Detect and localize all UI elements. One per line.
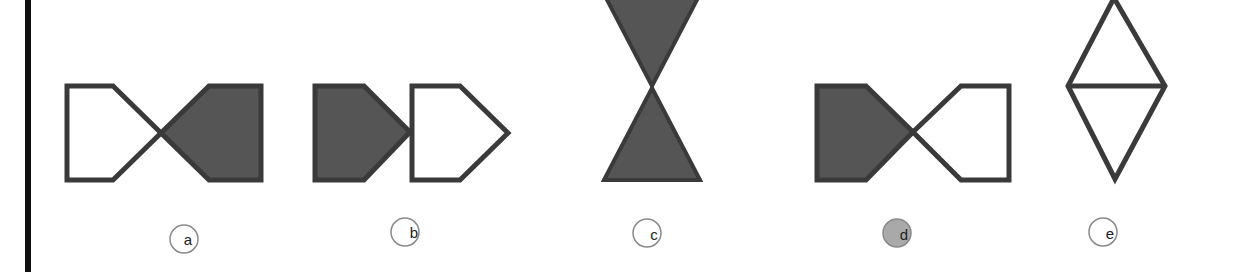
option-a-left-pentagon (67, 86, 161, 180)
option-d-left-pentagon (817, 86, 913, 180)
option-c-figure[interactable] (604, 0, 700, 180)
option-d-right-pentagon (913, 86, 1009, 180)
option-e-figure[interactable] (1068, 0, 1165, 179)
option-e-diamond (1068, 0, 1165, 179)
answer-options-diagram: a b c d e (0, 0, 1238, 272)
option-d-letter: d (900, 226, 908, 243)
option-b-figure[interactable] (315, 86, 508, 180)
option-d-label-selected[interactable]: d (883, 219, 911, 247)
option-a-figure[interactable] (67, 86, 261, 180)
option-e-label[interactable]: e (1089, 218, 1117, 246)
option-d-figure[interactable] (817, 86, 1009, 180)
option-a-letter: a (184, 231, 193, 248)
option-b-letter: b (410, 224, 418, 241)
option-c-top-triangle (604, 0, 700, 86)
option-e-letter: e (1106, 225, 1114, 242)
option-b-left-pentagon (315, 86, 410, 180)
option-a-right-pentagon (161, 86, 261, 180)
left-border-bar (25, 0, 31, 272)
option-c-label[interactable]: c (633, 219, 661, 247)
option-a-label[interactable]: a (170, 225, 198, 253)
option-c-bottom-triangle (604, 88, 700, 180)
option-b-label[interactable]: b (391, 218, 419, 246)
option-c-letter: c (650, 226, 658, 243)
option-b-right-pentagon (412, 86, 508, 180)
